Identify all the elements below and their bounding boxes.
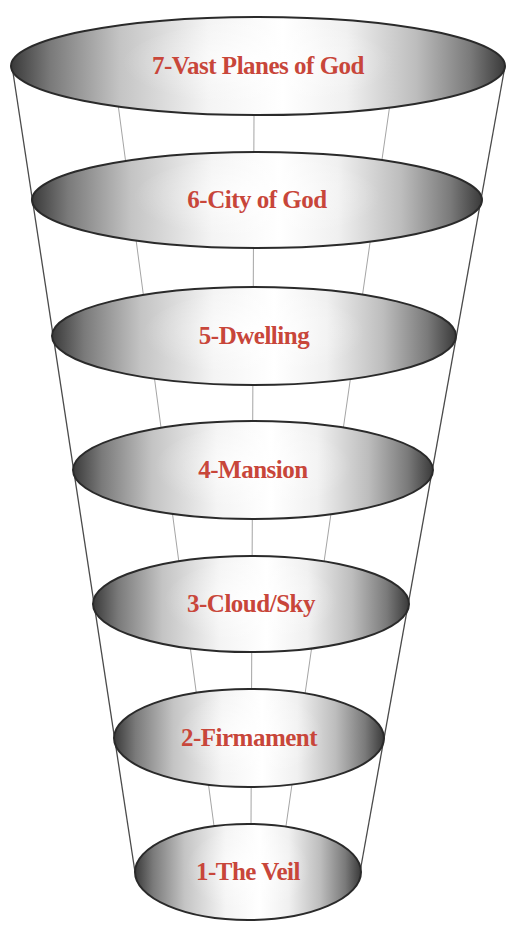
level-1-disc: 1-The Veil [135,824,361,920]
level-3-label: 3-Cloud/Sky [187,590,316,617]
level-7-label: 7-Vast Planes of God [152,52,365,79]
level-5-disc: 5-Dwelling [52,287,456,385]
level-6-label: 6-City of God [187,186,327,213]
level-4-disc: 4-Mansion [73,421,433,519]
level-discs: 7-Vast Planes of God6-City of God5-Dwell… [11,17,505,920]
cone-diagram-canvas: 7-Vast Planes of God6-City of God5-Dwell… [0,0,515,944]
level-3-disc: 3-Cloud/Sky [93,556,409,652]
level-4-label: 4-Mansion [198,456,308,483]
level-2-label: 2-Firmament [181,724,318,751]
level-1-label: 1-The Veil [196,858,301,885]
level-2-disc: 2-Firmament [114,689,384,787]
cone-diagram: 7-Vast Planes of God6-City of God5-Dwell… [0,0,515,944]
level-6-disc: 6-City of God [32,152,482,248]
level-7-disc: 7-Vast Planes of God [11,17,505,115]
level-5-label: 5-Dwelling [199,322,310,349]
